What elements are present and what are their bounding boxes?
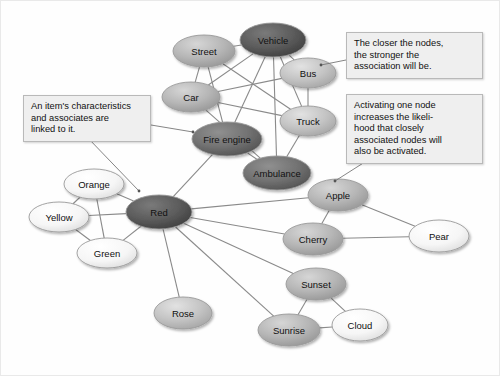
callout-characteristics: An item's characteristics and associates… (23, 95, 151, 142)
edge-fireengine-red (173, 154, 212, 196)
node-street[interactable]: Street (173, 35, 235, 67)
edge-street-car (195, 67, 199, 82)
diagram-canvas: StreetVehicleBusCarTruckFire engineAmbul… (0, 0, 500, 376)
edge-red-cherry (190, 217, 284, 234)
node-car[interactable]: Car (162, 82, 220, 112)
edge-apple-cherry (322, 210, 330, 223)
callout-closer-nodes: The closer the nodes, the stronger the a… (346, 32, 483, 79)
node-sunset[interactable]: Sunset (286, 268, 346, 300)
edge-sunset-sunrise (298, 299, 307, 314)
callout-leader-dot-activating-node-0 (334, 180, 337, 183)
node-label-cherry: Cherry (299, 234, 328, 245)
node-label-ambulance: Ambulance (253, 168, 301, 179)
edge-truck-ambulance (287, 135, 300, 156)
node-red[interactable]: Red (126, 195, 192, 229)
node-vehicle[interactable]: Vehicle (240, 23, 306, 57)
node-label-sunset: Sunset (301, 279, 331, 290)
callout-activating-node: Activating one node increases the likeli… (346, 94, 483, 164)
node-label-green: Green (94, 248, 120, 259)
node-label-orange: Orange (78, 179, 110, 190)
edge-street-vehicle (234, 45, 242, 46)
node-label-cloud: Cloud (348, 320, 373, 331)
node-truck[interactable]: Truck (280, 106, 336, 136)
edge-orange-yellow (73, 197, 80, 204)
callout-leader-dot-characteristics-0 (192, 131, 195, 134)
edge-red-yellow (89, 214, 126, 216)
node-rose[interactable]: Rose (154, 297, 212, 329)
node-bus[interactable]: Bus (280, 58, 336, 88)
edge-cherry-pear (343, 237, 409, 239)
node-cherry[interactable]: Cherry (283, 223, 343, 255)
node-label-truck: Truck (296, 116, 320, 127)
callout-leader-dot-characteristics-1 (138, 190, 141, 193)
node-label-sunrise: Sunrise (273, 325, 305, 336)
node-pear[interactable]: Pear (409, 220, 469, 252)
edge-apple-pear (362, 205, 415, 227)
edge-red-orange (117, 194, 134, 201)
node-label-street: Street (191, 46, 217, 57)
edge-car-truck (218, 103, 282, 116)
node-orange[interactable]: Orange (64, 169, 124, 199)
edge-sunset-cloud (331, 298, 345, 311)
edge-yellow-green (76, 229, 91, 240)
node-label-vehicle: Vehicle (258, 35, 289, 46)
callout-leader-characteristics-0 (151, 125, 193, 132)
node-yellow[interactable]: Yellow (29, 202, 89, 232)
node-fireengine[interactable]: Fire engine (192, 122, 262, 156)
node-label-fireengine: Fire engine (203, 134, 251, 145)
edge-sunrise-cloud (320, 327, 332, 328)
node-label-car: Car (183, 92, 198, 103)
edge-vehicle-bus (289, 55, 294, 60)
edge-red-green (123, 226, 141, 240)
node-label-yellow: Yellow (45, 212, 72, 223)
node-cloud[interactable]: Cloud (332, 309, 388, 341)
edge-orange-green (97, 199, 104, 238)
node-label-pear: Pear (429, 231, 449, 242)
node-label-red: Red (150, 207, 167, 218)
node-ambulance[interactable]: Ambulance (243, 156, 311, 190)
edge-red-sunset (184, 223, 294, 273)
node-sunrise[interactable]: Sunrise (258, 314, 320, 346)
callout-leader-dot-closer-nodes-0 (320, 64, 323, 67)
edge-red-apple (191, 198, 308, 209)
node-label-bus: Bus (300, 68, 317, 79)
node-apple[interactable]: Apple (308, 179, 368, 211)
node-label-rose: Rose (172, 308, 194, 319)
node-green[interactable]: Green (77, 238, 137, 268)
edge-vehicle-ambulance (274, 57, 277, 156)
node-label-apple: Apple (326, 190, 350, 201)
edge-red-rose (163, 229, 179, 297)
